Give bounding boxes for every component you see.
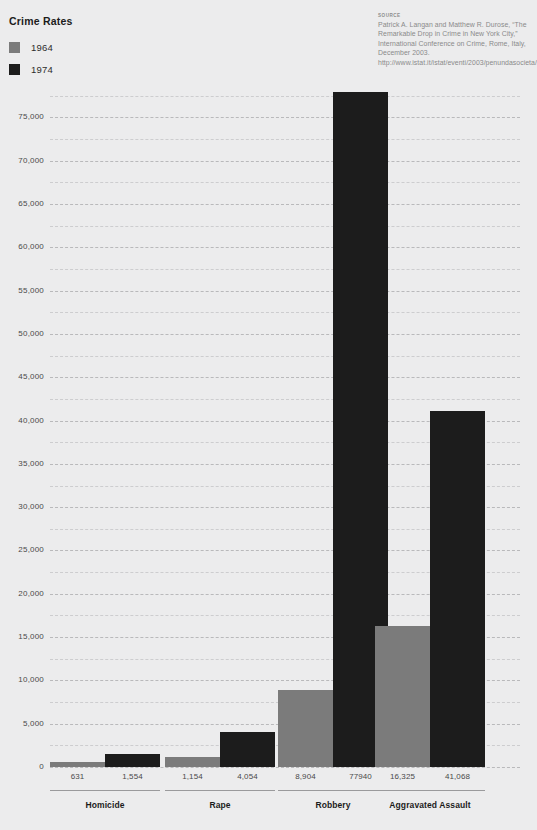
bar-value-label: 41,068 — [430, 772, 485, 781]
y-axis-tick-label: 20,000 — [0, 589, 44, 598]
gridline-minor — [50, 182, 520, 183]
gridline-major — [50, 377, 520, 378]
group-rule — [278, 790, 388, 791]
y-axis-tick-label: 75,000 — [0, 112, 44, 121]
gridline-major — [50, 117, 520, 118]
gridline-minor — [50, 399, 520, 400]
x-axis-group-label-aggravated-assault: Aggravated Assault — [375, 800, 485, 811]
gridline-major — [50, 334, 520, 335]
group-rule — [165, 790, 275, 791]
bar-rape-1964 — [165, 757, 220, 767]
bar-aggravated-assault-1964 — [375, 626, 430, 767]
gridline-major — [50, 291, 520, 292]
y-axis-tick-label: 25,000 — [0, 545, 44, 554]
bar-value-label: 1,154 — [165, 772, 220, 781]
y-axis-tick-label: 70,000 — [0, 156, 44, 165]
gridline-minor — [50, 226, 520, 227]
y-axis-tick-label: 10,000 — [0, 675, 44, 684]
gridline-minor — [50, 356, 520, 357]
y-axis-tick-label: 35,000 — [0, 459, 44, 468]
y-axis-tick-label: 60,000 — [0, 242, 44, 251]
x-axis-group-label-homicide: Homicide — [50, 800, 160, 811]
gridline-minor — [50, 312, 520, 313]
bar-rape-1974 — [220, 732, 275, 767]
group-rule — [50, 790, 160, 791]
bar-value-label: 16,325 — [375, 772, 430, 781]
y-axis-tick-label: 50,000 — [0, 329, 44, 338]
gridline-major — [50, 161, 520, 162]
bar-chart-plot: 05,00010,00015,00020,00025,00030,00035,0… — [0, 0, 537, 830]
group-rule — [375, 790, 485, 791]
gridline-major — [50, 247, 520, 248]
bar-value-label: 8,904 — [278, 772, 333, 781]
y-axis-tick-label: 40,000 — [0, 416, 44, 425]
x-axis-group-label-rape: Rape — [165, 800, 275, 811]
bar-value-label: 631 — [50, 772, 105, 781]
y-axis-tick-label: 65,000 — [0, 199, 44, 208]
axis-baseline — [50, 767, 520, 768]
gridline-minor — [50, 269, 520, 270]
bar-homicide-1964 — [50, 762, 105, 767]
y-axis-tick-label: 45,000 — [0, 372, 44, 381]
y-axis-tick-label: 30,000 — [0, 502, 44, 511]
y-axis-tick-label: 55,000 — [0, 286, 44, 295]
x-axis-group-label-robbery: Robbery — [278, 800, 388, 811]
bar-aggravated-assault-1974 — [430, 411, 485, 767]
bar-homicide-1974 — [105, 754, 160, 767]
gridline-minor — [50, 139, 520, 140]
y-axis-tick-label: 0 — [0, 762, 44, 771]
bar-robbery-1964 — [278, 690, 333, 767]
y-axis-tick-label: 15,000 — [0, 632, 44, 641]
bar-value-label: 1,554 — [105, 772, 160, 781]
gridline-major — [50, 204, 520, 205]
gridline-minor — [50, 96, 520, 97]
y-axis-tick-label: 5,000 — [0, 719, 44, 728]
bar-value-label: 4,054 — [220, 772, 275, 781]
